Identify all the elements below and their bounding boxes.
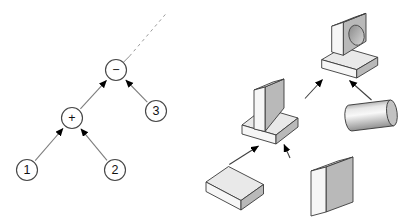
- arrow-slab-to-pedestal: [229, 146, 258, 165]
- shape-cylinder: [343, 99, 398, 131]
- edge-1-to-plus: [35, 129, 63, 161]
- node-label-3: 3: [153, 104, 160, 118]
- arrow-upright-to-pedestal: [284, 145, 290, 159]
- node-label-minus: −: [112, 63, 119, 77]
- tree-node-plus: +: [62, 108, 83, 129]
- shape-upright-slab: [311, 157, 353, 216]
- node-label-2: 2: [112, 163, 119, 177]
- arrow-pedestal-to-result: [305, 80, 323, 99]
- node-label-1: 1: [24, 163, 31, 177]
- edge-3-to-minus: [126, 80, 148, 102]
- tree-node-1: 1: [17, 160, 38, 181]
- pedestal-column-front-face: [254, 87, 265, 132]
- tree-node-2: 2: [105, 160, 126, 181]
- upright-front-face: [311, 167, 326, 216]
- expression-tree: − + 1 2 3: [17, 13, 168, 181]
- result-column-front-face: [332, 22, 344, 55]
- node-label-plus: +: [68, 111, 75, 125]
- cylinder-body: [343, 100, 393, 132]
- parent-link-stub: [123, 56, 129, 62]
- parent-link-dashed-line: [130, 13, 168, 57]
- csg-shapes: [206, 13, 399, 216]
- shape-base-slab: [206, 167, 264, 211]
- tree-edges: [35, 80, 147, 161]
- upright-side-face: [326, 157, 353, 212]
- diagram-svg: − + 1 2 3: [0, 0, 412, 220]
- shape-union-pedestal: [242, 79, 298, 144]
- arrow-cylinder-to-result: [350, 81, 372, 101]
- shape-result-block-with-hole: [322, 13, 378, 78]
- edge-plus-to-minus: [80, 80, 106, 109]
- tree-node-minus: −: [106, 60, 127, 81]
- csg-diagram: − + 1 2 3: [0, 0, 412, 220]
- edge-2-to-plus: [81, 129, 107, 161]
- tree-node-3: 3: [146, 101, 167, 122]
